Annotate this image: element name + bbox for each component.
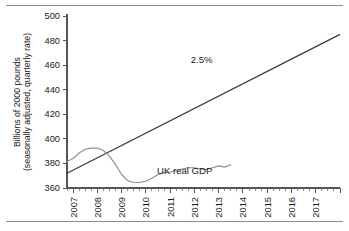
- y-axis-title-line1: Billions of 2000 pounds: [12, 56, 22, 146]
- x-tick-label-2017: 2017: [311, 197, 321, 218]
- x-tick-label-2007: 2007: [69, 197, 79, 218]
- x-tick-label-2012: 2012: [190, 197, 200, 218]
- x-tick-label-2016: 2016: [287, 197, 297, 218]
- y-tick-label-420: 420: [44, 109, 60, 119]
- y-axis: 360380400420440460480500: [44, 11, 67, 193]
- annotations-group: 2.5%UK real GDP: [157, 54, 213, 177]
- gdp-series-annotation: UK real GDP: [157, 165, 212, 176]
- y-tick-label-360: 360: [44, 183, 60, 193]
- figure-top-rule: [6, 5, 343, 6]
- y-tick-label-500: 500: [44, 11, 60, 21]
- x-tick-label-2008: 2008: [93, 197, 103, 218]
- chart-figure: 360380400420440460480500 200720082009201…: [0, 0, 349, 231]
- x-tick-label-2014: 2014: [238, 197, 248, 218]
- x-tick-label-2011: 2011: [166, 197, 176, 217]
- y-tick-label-480: 480: [44, 36, 60, 46]
- x-tick-label-2015: 2015: [263, 197, 273, 218]
- chart-plot-area: 360380400420440460480500 200720082009201…: [0, 0, 349, 231]
- y-tick-label-380: 380: [44, 158, 60, 168]
- trend-growth-annotation: 2.5%: [191, 54, 213, 65]
- x-tick-label-2010: 2010: [141, 197, 151, 218]
- y-tick-label-440: 440: [44, 85, 60, 95]
- y-axis-title: Billions of 2000 pounds(seasonally adjus…: [12, 33, 32, 171]
- y-axis-title-line2: (seasonally adjusted, quarterly rate): [22, 33, 32, 171]
- y-tick-label-400: 400: [44, 134, 60, 144]
- x-axis: 2007200820092010201120122013201420152016…: [67, 188, 340, 218]
- x-tick-label-2009: 2009: [117, 197, 127, 218]
- y-tick-label-460: 460: [44, 60, 60, 70]
- figure-bottom-rule: [6, 221, 343, 222]
- x-tick-label-2013: 2013: [214, 197, 224, 218]
